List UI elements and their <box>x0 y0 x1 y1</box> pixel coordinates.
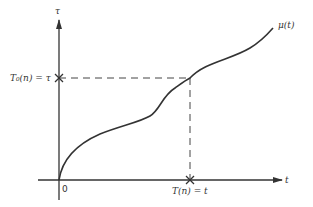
curve-label: μ(t) <box>278 20 295 30</box>
x-axis-label: t <box>285 175 289 185</box>
x-marker-label: T(n) = t <box>172 186 208 196</box>
diagram-canvas: τ t μ(t) 0 T₀(n) = τ T(n) = t <box>0 0 313 207</box>
origin-label: 0 <box>62 184 68 194</box>
mu-curve <box>59 28 273 180</box>
y-marker-label: T₀(n) = τ <box>10 73 52 83</box>
y-axis-label: τ <box>55 6 61 16</box>
